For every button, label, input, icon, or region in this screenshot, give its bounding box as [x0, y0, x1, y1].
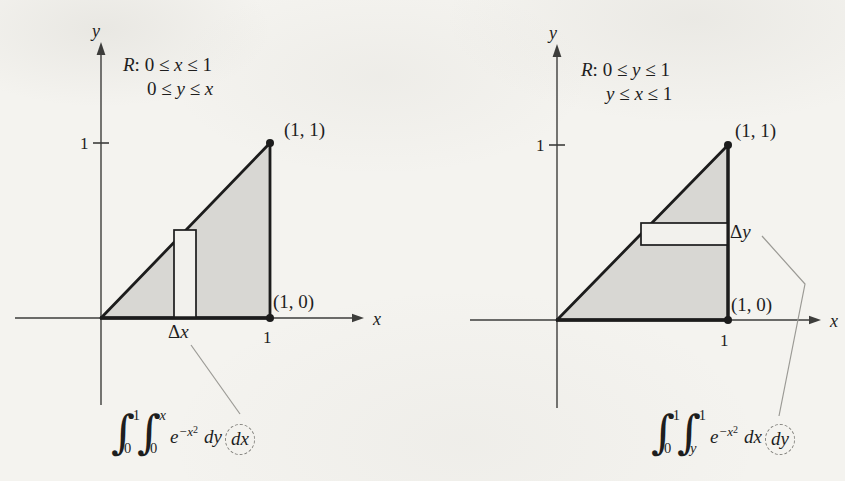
- right-inner-differential: dx: [744, 426, 762, 448]
- integrand-exponent-power: 2: [193, 424, 198, 435]
- left-integral-formula: ∫ 1 0 ∫ x 0 e−x2 dy dx: [111, 407, 255, 457]
- right-vertex-dot-top: [724, 141, 732, 149]
- right-vertex-dot-bottom: [724, 316, 732, 324]
- right-y-axis-arrow-icon: [553, 44, 562, 57]
- right-x-tick-label: 1: [720, 331, 729, 351]
- left-x-axis-label: x: [373, 309, 381, 330]
- left-point-1-0-label: (1, 0): [273, 291, 314, 313]
- right-integral-formula: ∫ 1 0 ∫ 1 y e−x2 dx dy: [651, 407, 795, 457]
- left-inner-lower-limit: 0: [150, 441, 157, 456]
- left-dx-strip: [174, 230, 196, 318]
- left-strip-label: Δx: [168, 321, 189, 343]
- left-circled-differential: dx: [225, 424, 255, 455]
- left-inner-upper-limit: x: [160, 408, 166, 423]
- left-inner-differential: dy: [204, 426, 222, 448]
- integrand-exponent: −x: [718, 424, 733, 439]
- integrand-exponent: −x: [178, 424, 193, 439]
- right-y-axis-label: y: [549, 23, 557, 44]
- integrand-exponent-power: 2: [733, 424, 738, 435]
- right-circled-differential: dy: [765, 424, 795, 455]
- figure: y R: 0 ≤ x ≤ 1 0 ≤ y ≤ x 1 (1, 1) (1, 0)…: [0, 0, 845, 481]
- left-y-axis-label: y: [92, 21, 100, 42]
- right-y-tick-label: 1: [536, 136, 545, 156]
- right-point-1-0-label: (1, 0): [731, 294, 772, 316]
- left-y-tick-label: 1: [80, 134, 89, 154]
- right-outer-lower-limit: 0: [664, 441, 671, 456]
- right-outer-integral: ∫ 1 0: [651, 407, 677, 457]
- left-integrand: e−x2: [170, 424, 198, 448]
- right-inner-lower-limit: y: [690, 441, 696, 456]
- right-x-axis-arrow-icon: [809, 316, 821, 324]
- right-inner-upper-limit: 1: [699, 408, 706, 423]
- right-point-1-1-label: (1, 1): [735, 120, 776, 142]
- right-inner-integral: ∫ 1 y: [677, 407, 703, 457]
- left-inner-integral: ∫ x 0: [137, 407, 163, 457]
- left-y-axis-arrow-icon: [97, 42, 106, 55]
- left-region-condition-2: 0 ≤ y ≤ x: [147, 78, 213, 100]
- left-vertex-dot-top: [266, 139, 274, 147]
- right-x-axis-label: x: [830, 311, 838, 332]
- left-point-1-1-label: (1, 1): [284, 119, 325, 141]
- left-x-axis-arrow-icon: [352, 314, 364, 322]
- right-strip-label: Δy: [730, 221, 751, 243]
- right-region-condition-2: y ≤ x ≤ 1: [606, 83, 672, 105]
- left-outer-integral: ∫ 1 0: [111, 407, 137, 457]
- left-outer-lower-limit: 0: [124, 441, 131, 456]
- left-region-condition-1: R: 0 ≤ x ≤ 1: [123, 54, 212, 76]
- left-x-tick-label: 1: [263, 328, 272, 348]
- left-leader-line: [191, 345, 240, 414]
- right-dy-strip: [641, 223, 728, 245]
- right-region-condition-1: R: 0 ≤ y ≤ 1: [581, 59, 670, 81]
- right-integrand: e−x2: [710, 424, 738, 448]
- right-leader-line: [762, 236, 805, 416]
- left-vertex-dot-bottom: [266, 314, 274, 322]
